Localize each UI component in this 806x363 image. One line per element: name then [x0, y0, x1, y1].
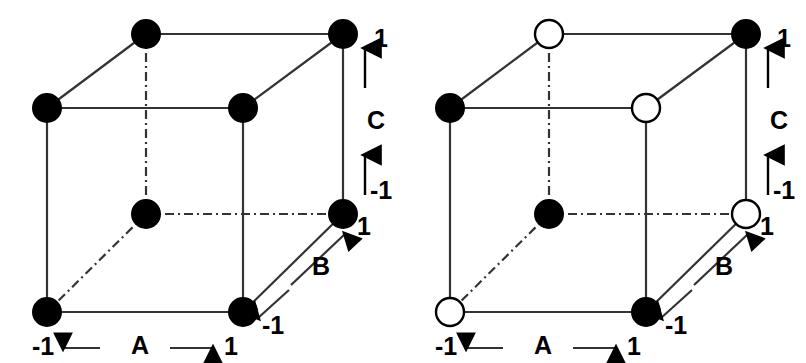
vertex-back-top-right[interactable]	[732, 20, 760, 48]
axis-b-neg-label: -1	[262, 311, 284, 339]
axis-c-label: C	[770, 106, 788, 134]
vertex-back-bottom-right[interactable]	[329, 200, 357, 228]
cube-figure: 1 C -1 1 B -1 -1 A 1	[0, 0, 806, 363]
vertex-nodes	[436, 20, 760, 326]
axis-a-label: A	[534, 331, 552, 359]
axis-a-pos-label: 1	[224, 332, 238, 360]
vertex-front-bottom-right[interactable]	[632, 298, 660, 326]
axis-c-pos-label: 1	[777, 24, 791, 52]
left-cube-diagram: 1 C -1 1 B -1 -1 A 1	[0, 0, 403, 363]
axis-a-pos-label: 1	[627, 332, 641, 360]
vertex-front-top-right[interactable]	[229, 94, 257, 122]
vertex-back-top-left[interactable]	[132, 20, 160, 48]
axis-c-neg-label: -1	[370, 176, 392, 204]
axis-b-pos-label: 1	[357, 212, 371, 240]
axis-c: 1 C -1	[768, 24, 795, 204]
right-cube-diagram: 1 C -1 1 B -1 -1 A 1	[403, 0, 806, 363]
vertex-front-top-left[interactable]	[436, 94, 464, 122]
axis-c-label: C	[367, 106, 385, 134]
axis-b-label: B	[715, 252, 733, 280]
axis-c: 1 C -1	[365, 24, 392, 204]
vertex-front-top-left[interactable]	[33, 94, 61, 122]
axis-c-pos-label: 1	[374, 24, 388, 52]
axis-a-neg-label: -1	[435, 332, 457, 360]
vertex-front-top-right[interactable]	[632, 94, 660, 122]
edge-connect-top-right	[243, 34, 343, 108]
vertex-front-bottom-left[interactable]	[436, 298, 464, 326]
hidden-edge-diagonal	[450, 214, 549, 312]
edge-connect-top-left	[47, 34, 146, 108]
axis-a: -1 A 1	[32, 331, 238, 360]
visible-edges	[450, 34, 746, 312]
vertex-back-top-left[interactable]	[535, 20, 563, 48]
vertex-nodes	[33, 20, 357, 326]
vertex-back-bottom-left[interactable]	[535, 200, 563, 228]
hidden-edge-diagonal	[47, 214, 146, 312]
axis-a-label: A	[131, 331, 149, 359]
left-cube-panel: 1 C -1 1 B -1 -1 A 1	[0, 0, 403, 363]
vertex-front-bottom-right[interactable]	[229, 298, 257, 326]
vertex-back-bottom-left[interactable]	[132, 200, 160, 228]
axis-a-neg-label: -1	[32, 332, 54, 360]
axis-b: 1 B -1	[661, 212, 774, 339]
axis-b-neg-label: -1	[665, 311, 687, 339]
vertex-front-bottom-left[interactable]	[33, 298, 61, 326]
axis-c-neg-label: -1	[773, 176, 795, 204]
axis-b: 1 B -1	[258, 212, 371, 339]
vertex-back-bottom-right[interactable]	[732, 200, 760, 228]
axis-b-pos-label: 1	[760, 212, 774, 240]
axis-a: -1 A 1	[435, 331, 641, 360]
axis-b-label: B	[312, 252, 330, 280]
visible-edges	[47, 34, 343, 312]
edge-connect-top-right	[646, 34, 746, 108]
vertex-back-top-right[interactable]	[329, 20, 357, 48]
right-cube-panel: 1 C -1 1 B -1 -1 A 1	[403, 0, 806, 363]
edge-connect-top-left	[450, 34, 549, 108]
